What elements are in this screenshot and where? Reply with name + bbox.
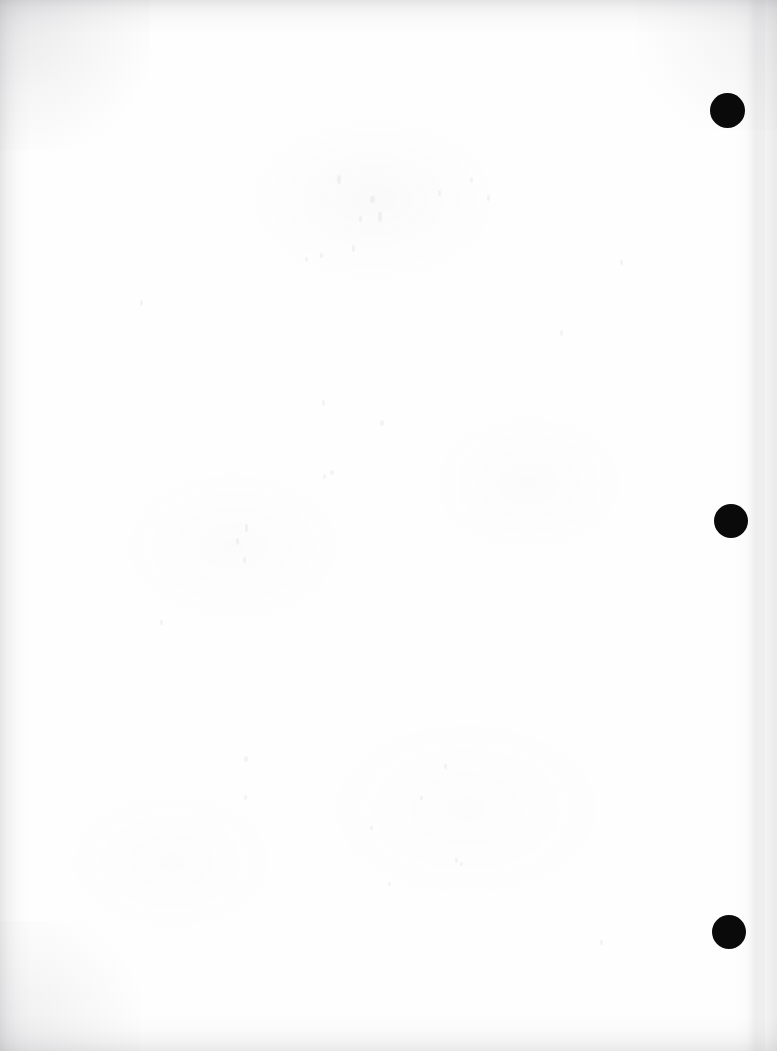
paper-surface [0, 0, 777, 1051]
margin-mark-1 [710, 93, 745, 128]
margin-mark-3 [712, 915, 746, 949]
scanned-page [0, 0, 777, 1051]
margin-mark-2 [714, 504, 748, 538]
